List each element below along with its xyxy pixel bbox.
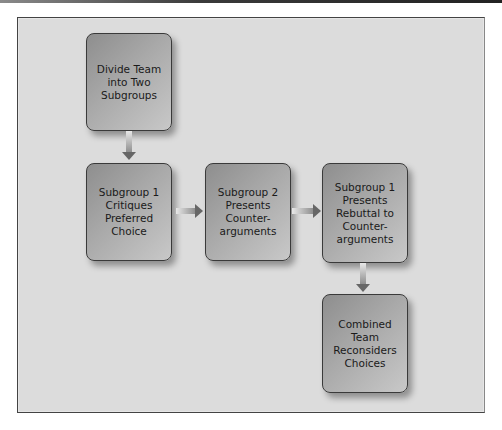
node-combined-team: Combined Team Reconsiders Choices xyxy=(322,294,408,393)
arrow-down-1 xyxy=(126,131,132,153)
node-subgroup1-rebuttal: Subgroup 1 Presents Rebuttal to Counter-… xyxy=(322,163,408,263)
node-label: Combined Team Reconsiders Choices xyxy=(323,318,407,370)
node-label: Subgroup 1 Critiques Preferred Choice xyxy=(87,186,171,238)
arrow-right-2 xyxy=(292,208,314,214)
node-divide-team: Divide Team into Two Subgroups xyxy=(86,33,172,131)
node-subgroup2-counterarguments: Subgroup 2 Presents Counter-arguments xyxy=(205,163,291,261)
node-label: Subgroup 2 Presents Counter-arguments xyxy=(206,186,290,238)
top-rule xyxy=(0,0,502,3)
arrow-right-1 xyxy=(176,208,196,214)
node-label: Divide Team into Two Subgroups xyxy=(87,63,171,102)
node-subgroup1-critiques: Subgroup 1 Critiques Preferred Choice xyxy=(86,163,172,261)
node-label: Subgroup 1 Presents Rebuttal to Counter-… xyxy=(323,181,407,246)
arrow-down-2 xyxy=(360,263,366,285)
